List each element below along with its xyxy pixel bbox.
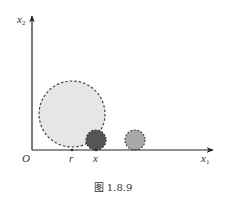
figure-caption: 图 1.8.9 [94,182,133,193]
x-axis-label: x1 [200,152,210,166]
origin-label: O [22,152,30,164]
tick-label-r: r [69,152,74,164]
tick-x-marker [95,149,98,152]
tick-label-x: x [92,152,98,164]
y-axis-label: x2 [16,13,26,27]
tick-r-marker [71,149,74,152]
diagram-figure: x2 O r x x1 图 1.8.9 [0,0,226,198]
dark-circle [86,130,106,150]
medium-circle [125,130,145,150]
